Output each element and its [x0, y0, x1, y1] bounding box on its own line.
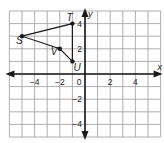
- vertex-label-t: T: [66, 12, 73, 23]
- y-tick-label: −4: [72, 119, 82, 129]
- x-tick-label: 4: [133, 77, 138, 87]
- vertex-v: [58, 47, 62, 51]
- y-axis-label: y: [87, 9, 93, 19]
- vertex-label-s: S: [16, 35, 23, 46]
- x-tick-label: −4: [30, 77, 40, 87]
- y-tick-label: 4: [77, 19, 82, 29]
- y-axis-down-arrow-icon: [82, 131, 89, 140]
- y-tick-label: −2: [72, 94, 82, 104]
- coordinate-plane: xy −4−2024−4−224 STUV: [0, 0, 164, 143]
- x-axis-left-arrow-icon: [5, 71, 14, 78]
- x-axis-label: x: [157, 62, 163, 72]
- x-tick-label: 2: [108, 77, 113, 87]
- y-tick-label: 2: [77, 44, 82, 54]
- vertices: STUV: [16, 12, 81, 74]
- vertex-label-u: U: [73, 62, 81, 73]
- x-tick-label: −2: [55, 77, 65, 87]
- axes: xy: [5, 8, 162, 140]
- x-tick-label: 0: [77, 77, 82, 87]
